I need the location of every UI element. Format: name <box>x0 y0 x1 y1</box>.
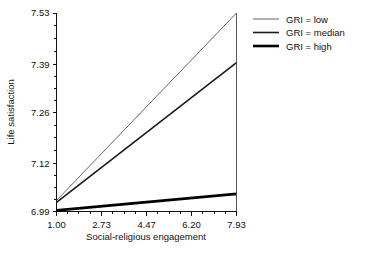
y-tick-label: 7.26 <box>31 107 50 118</box>
y-tick-label: 7.12 <box>31 158 50 169</box>
x-tick-label: 7.93 <box>227 219 246 230</box>
x-tick-label: 6.20 <box>182 219 201 230</box>
x-axis-title: Social-religious engagement <box>86 231 206 242</box>
y-axis-title: Life satisfaction <box>5 79 16 144</box>
y-tick-label: 6.99 <box>31 206 50 217</box>
x-tick-label: 2.73 <box>92 219 111 230</box>
y-tick-label: 7.53 <box>31 7 50 18</box>
x-tick-label: 4.47 <box>137 219 156 230</box>
legend-label-0: GRI = low <box>286 14 328 25</box>
x-tick-label: 1.00 <box>47 219 66 230</box>
legend-label-2: GRI = high <box>286 41 332 52</box>
legend-label-1: GRI = median <box>286 27 345 38</box>
chart-figure: 6.997.127.267.397.53 1.002.734.476.207.9… <box>0 0 392 265</box>
simple-slopes-line-chart: 6.997.127.267.397.53 1.002.734.476.207.9… <box>0 0 392 265</box>
y-tick-label: 7.39 <box>31 59 50 70</box>
